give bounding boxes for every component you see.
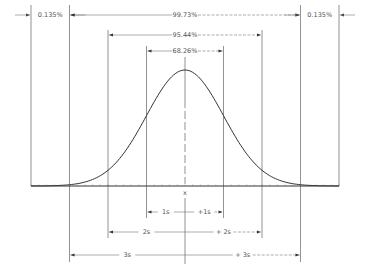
percent-label: 68.26%: [173, 47, 198, 55]
arrowhead-left: [71, 13, 75, 16]
sigma-boundary-lines: [31, 5, 339, 264]
minus-sigma-label: 1s: [162, 208, 170, 216]
plus-sigma-label: + 2s: [216, 228, 232, 236]
arrowhead-right: [257, 33, 261, 36]
normal-distribution-diagram: 0.135%99.73%0.135%95.44%68.26% 1s+1s2s+ …: [0, 0, 374, 277]
percent-label: 95.44%: [173, 31, 198, 39]
plus-sigma-label: +1s: [198, 208, 212, 216]
percent-annotation: 68.26%: [148, 47, 223, 55]
percent-annotation: 99.73%: [71, 11, 300, 19]
percent-label: 0.135%: [38, 11, 63, 19]
minus-sigma-label: 2s: [143, 228, 151, 236]
arrowhead-left: [148, 210, 152, 213]
arrowhead-right: [219, 49, 223, 52]
percent-label: 99.73%: [173, 11, 198, 19]
minus-sigma-label: 3s: [123, 251, 131, 259]
arrowhead-left: [109, 230, 113, 233]
percent-annotation: 0.135%: [285, 11, 356, 19]
diagram-canvas: 0.135%99.73%0.135%95.44%68.26% 1s+1s2s+ …: [0, 0, 374, 277]
plus-sigma-label: + 3s: [235, 251, 251, 259]
arrowhead-left: [109, 33, 113, 36]
x-axis: [31, 185, 339, 187]
percent-annotation: 95.44%: [109, 31, 261, 39]
arrowhead-right: [257, 230, 261, 233]
arrowhead-right: [219, 210, 223, 213]
mean-label: x: [183, 189, 187, 197]
percent-label: 0.135%: [307, 11, 332, 19]
arrowhead-right: [296, 253, 300, 256]
top-percent-annotations: 0.135%99.73%0.135%95.44%68.26%: [15, 11, 355, 55]
arrowhead-left: [148, 49, 152, 52]
arrowhead-left: [71, 253, 75, 256]
